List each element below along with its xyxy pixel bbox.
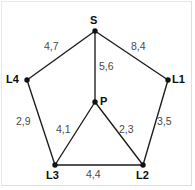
edge-weight-label-s-l1: 8,4 [131,41,146,52]
edge-weight-label-l3-l2: 4,4 [86,169,101,180]
edge-weight-label-s-p: 5,6 [99,61,114,72]
graph-vertex-p [92,99,97,104]
edge-weight-label-s-l4: 4,7 [44,41,59,52]
graph-edge-s-l4 [27,31,95,80]
graph-vertex-l2 [140,162,145,167]
graph-edge-l4-l3 [27,80,55,165]
graph-edge-s-l1 [95,31,168,80]
vertex-label-s: S [90,15,97,26]
graph-vertex-s [92,28,97,33]
graph-figure: 4,78,45,62,93,54,12,34,4SL1L2L3L4P [0,0,195,190]
vertex-label-l1: L1 [172,74,185,85]
vertex-label-l3: L3 [46,170,59,181]
graph-vertex-l1 [165,77,170,82]
vertex-label-l2: L2 [136,170,149,181]
edge-weight-label-l4-l3: 2,9 [16,116,31,127]
graph-canvas [0,0,195,190]
edge-weight-label-l1-l2: 3,5 [157,116,172,127]
edge-weight-label-p-l2: 2,3 [119,124,134,135]
vertex-label-l4: L4 [6,74,19,85]
vertex-label-p: P [100,96,107,107]
graph-vertex-l3 [52,162,57,167]
edge-weight-label-p-l3: 4,1 [56,124,71,135]
graph-vertex-l4 [24,77,29,82]
